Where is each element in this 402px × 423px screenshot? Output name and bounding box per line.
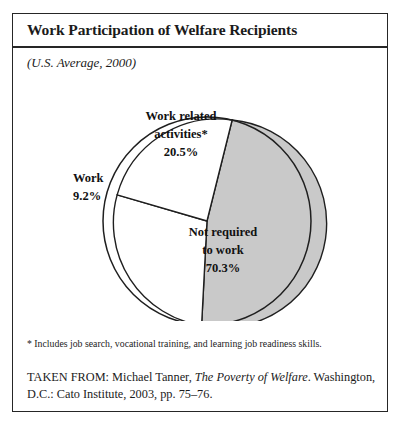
pie-label-not-required-line2: to work	[153, 242, 293, 260]
figure-frame: Work Participation of Welfare Recipients…	[12, 13, 388, 412]
figure-footnote: * Includes job search, vocational traini…	[27, 338, 377, 351]
pie-label-work-related-line2: activities*	[119, 126, 243, 144]
pie-label-work-related-percent: 20.5%	[119, 144, 243, 162]
pie-chart: Work related activities* 20.5% Work 9.2%…	[13, 76, 389, 321]
figure-header: Work Participation of Welfare Recipients	[13, 14, 387, 44]
figure-source: TAKEN FROM: Michael Tanner, The Poverty …	[27, 369, 379, 404]
title-divider	[13, 46, 387, 48]
source-work-title: The Poverty of Welfare	[195, 370, 308, 384]
pie-label-not-required-line1: Not required	[153, 224, 293, 242]
figure-title: Work Participation of Welfare Recipients	[27, 21, 373, 39]
source-prefix: TAKEN FROM: Michael Tanner,	[27, 370, 195, 384]
pie-label-work-related: Work related activities* 20.5%	[119, 108, 243, 161]
pie-label-not-required-percent: 70.3%	[153, 260, 293, 278]
figure-subtitle: (U.S. Average, 2000)	[27, 55, 136, 71]
pie-label-work-line1: Work	[73, 170, 151, 188]
pie-label-work-related-line1: Work related	[119, 108, 243, 126]
pie-label-work-percent: 9.2%	[73, 188, 151, 206]
pie-label-not-required: Not required to work 70.3%	[153, 224, 293, 277]
pie-label-work: Work 9.2%	[73, 170, 151, 206]
